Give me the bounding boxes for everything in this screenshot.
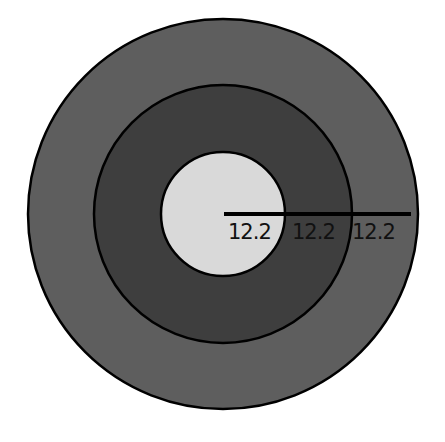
middle-ring-width-label: 12.2 — [292, 220, 335, 244]
outer-ring-width-label: 12.2 — [352, 220, 395, 244]
inner-radius-label: 12.2 — [228, 220, 271, 244]
concentric-circles-diagram: 12.2 12.2 12.2 — [0, 0, 445, 442]
